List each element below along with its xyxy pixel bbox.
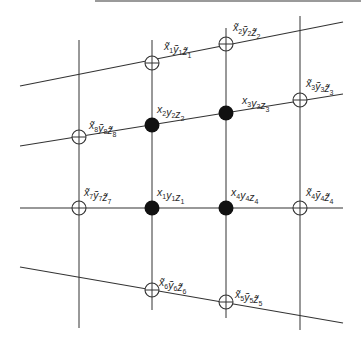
label-open-2: x̃2ỹ2z̃2 <box>232 21 261 40</box>
open-point-2 <box>219 37 233 51</box>
label-open-7: x̃7ỹ7z̃7 <box>83 186 112 205</box>
grid-diagram: x1y1z1x2y2z2x3y3z3x4y4z4x̃1ỹ1z̃1x̃2ỹ2z… <box>0 0 361 343</box>
label-filled-2: x2y2z2 <box>156 103 185 122</box>
label-open-3: x̃3ỹ3z̃3 <box>305 77 334 96</box>
open-point-1 <box>145 56 159 70</box>
bottom-line <box>20 267 343 323</box>
open-point-6 <box>145 283 159 297</box>
open-point-5 <box>219 295 233 309</box>
filled-points <box>145 106 234 216</box>
open-points <box>72 37 307 309</box>
filled-point-1 <box>145 201 160 216</box>
filled-point-2 <box>145 118 160 133</box>
point-labels: x1y1z1x2y2z2x3y3z3x4y4z4x̃1ỹ1z̃1x̃2ỹ2z… <box>83 21 334 307</box>
filled-point-3 <box>219 106 234 121</box>
label-open-4: x̃4ỹ4z̃4 <box>305 186 334 205</box>
label-open-1: x̃1ỹ1z̃1 <box>163 40 192 59</box>
open-point-4 <box>293 201 307 215</box>
open-point-7 <box>72 201 86 215</box>
label-filled-4: x4y4z4 <box>230 186 259 205</box>
open-point-8 <box>72 130 86 144</box>
label-open-5: x̃5ỹ5z̃5 <box>234 288 263 307</box>
filled-point-4 <box>219 201 234 216</box>
label-filled-1: x1y1z1 <box>156 186 185 205</box>
open-point-3 <box>293 93 307 107</box>
skew-lines <box>20 22 343 323</box>
